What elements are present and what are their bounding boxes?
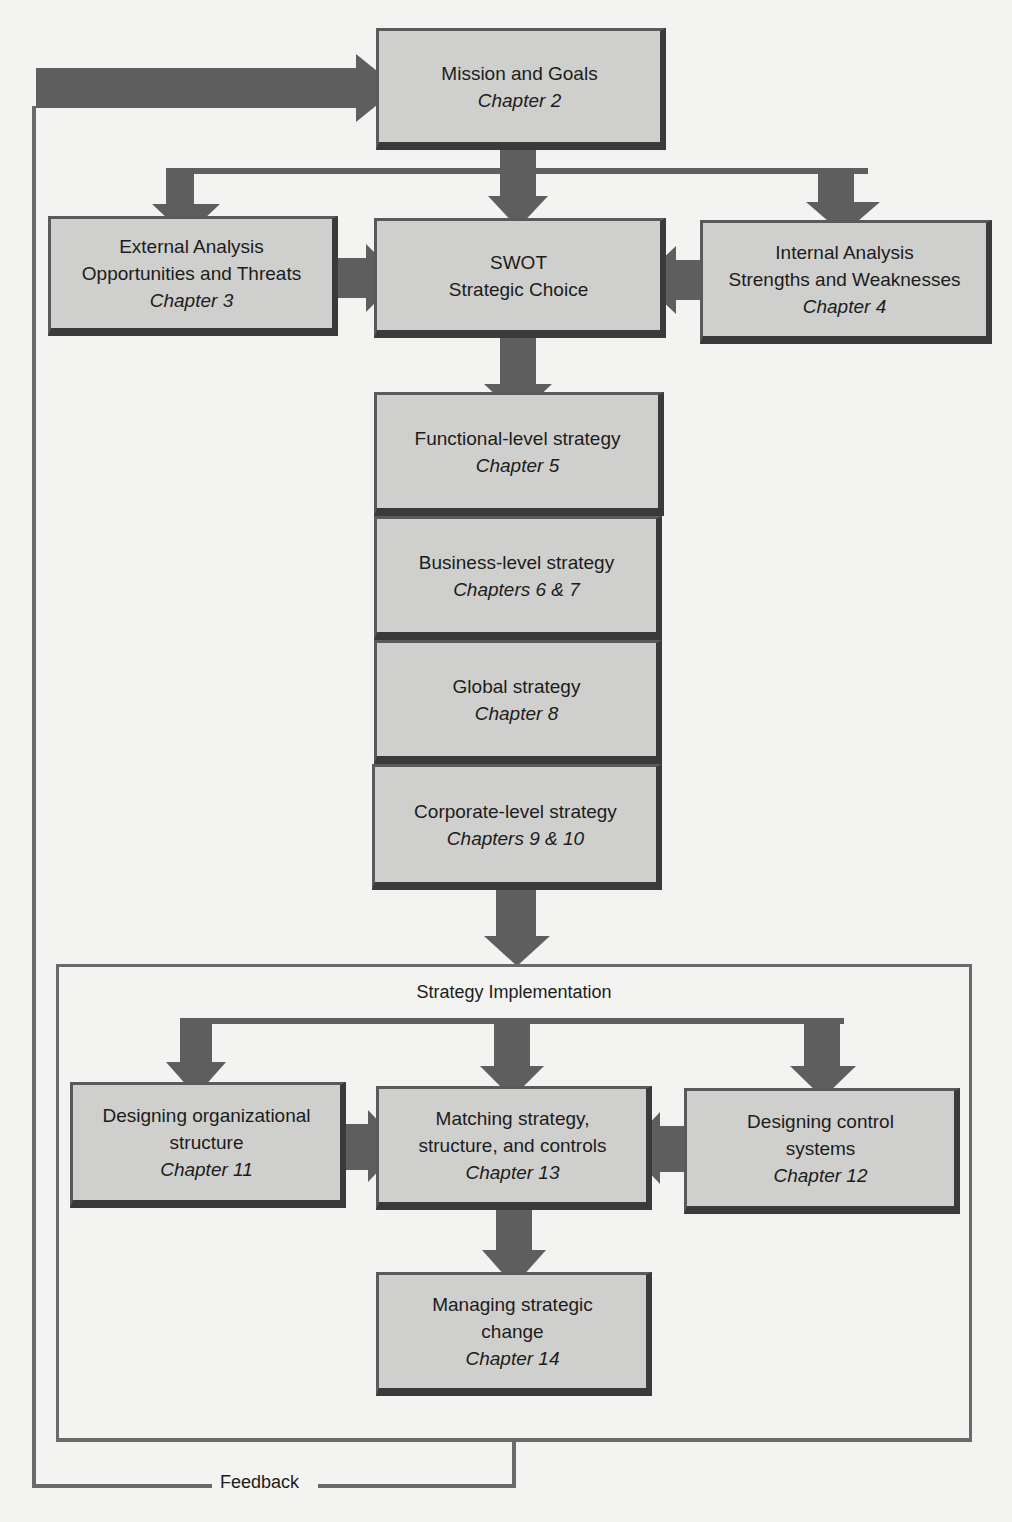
managing-change-box: Managing strategic change Chapter 14 (376, 1272, 652, 1396)
org-line2: structure (170, 1129, 244, 1156)
change-line1: Managing strategic (432, 1291, 593, 1318)
control-line2: systems (786, 1135, 856, 1162)
external-analysis-box: External Analysis Opportunities and Thre… (48, 216, 338, 336)
control-chapter: Chapter 12 (773, 1162, 867, 1189)
matching-line1: Matching strategy, (436, 1105, 590, 1132)
business-chapter: Chapters 6 & 7 (453, 576, 580, 603)
matching-line2: structure, and controls (419, 1132, 607, 1159)
change-chapter: Chapter 14 (465, 1345, 559, 1372)
matching-box: Matching strategy, structure, and contro… (376, 1086, 652, 1210)
global-strategy-box: Global strategy Chapter 8 (374, 640, 662, 764)
change-line2: change (481, 1318, 543, 1345)
swot-line1: SWOT (490, 249, 547, 276)
functional-chapter: Chapter 5 (476, 452, 559, 479)
corporate-chapter: Chapters 9 & 10 (447, 825, 584, 852)
external-line1: External Analysis (119, 233, 264, 260)
implementation-title: Strategy Implementation (364, 982, 664, 1003)
feedback-label: Feedback (214, 1472, 305, 1493)
control-line1: Designing control (747, 1108, 894, 1135)
control-systems-box: Designing control systems Chapter 12 (684, 1088, 960, 1214)
org-line1: Designing organizational (102, 1102, 310, 1129)
mission-title: Mission and Goals (441, 60, 597, 87)
global-chapter: Chapter 8 (475, 700, 558, 727)
internal-line2: Strengths and Weaknesses (728, 266, 960, 293)
corporate-title: Corporate-level strategy (414, 798, 617, 825)
org-structure-box: Designing organizational structure Chapt… (70, 1082, 346, 1208)
internal-line1: Internal Analysis (775, 239, 913, 266)
swot-line2: Strategic Choice (449, 276, 588, 303)
global-title: Global strategy (453, 673, 581, 700)
internal-chapter: Chapter 4 (803, 293, 886, 320)
corporate-strategy-box: Corporate-level strategy Chapters 9 & 10 (372, 764, 662, 890)
functional-strategy-box: Functional-level strategy Chapter 5 (374, 392, 664, 516)
business-strategy-box: Business-level strategy Chapters 6 & 7 (374, 516, 662, 640)
strategy-flowchart: Mission and Goals Chapter 2 External Ana… (0, 0, 1012, 1522)
mission-chapter: Chapter 2 (478, 87, 561, 114)
business-title: Business-level strategy (419, 549, 614, 576)
mission-goals-box: Mission and Goals Chapter 2 (376, 28, 666, 150)
external-line2: Opportunities and Threats (82, 260, 301, 287)
matching-chapter: Chapter 13 (465, 1159, 559, 1186)
functional-title: Functional-level strategy (415, 425, 621, 452)
internal-analysis-box: Internal Analysis Strengths and Weakness… (700, 220, 992, 344)
swot-box: SWOT Strategic Choice (374, 218, 666, 338)
org-chapter: Chapter 11 (160, 1156, 253, 1183)
feedback-arrow-into-mission (36, 54, 398, 122)
external-chapter: Chapter 3 (150, 287, 233, 314)
